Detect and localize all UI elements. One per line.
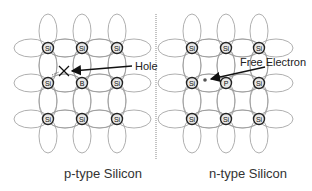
svg-text:Si: Si [189,45,196,52]
atom-si: Si [254,43,265,54]
atom-si: Si [43,114,54,125]
hole-x-icon [59,66,69,76]
p-type-caption: p-type Silicon [64,166,142,181]
svg-text:Si: Si [79,116,86,123]
svg-text:Si: Si [45,116,52,123]
atom-si: Si [112,78,123,89]
atom-si: Si [187,43,198,54]
svg-text:Si: Si [114,80,121,87]
atom-si: Si [77,114,88,125]
atom-si: Si [77,43,88,54]
atom-si: Si [221,43,232,54]
atom-si: Si [254,78,265,89]
lattice-diagram: SiSiSiSiBSiSiSiSi SiSiSiSiPSiSiSiSi [0,0,312,191]
atom-si: Si [187,114,198,125]
svg-text:Si: Si [256,116,263,123]
svg-text:Si: Si [45,45,52,52]
atom-si: Si [112,114,123,125]
atom-si: Si [112,43,123,54]
atom-si: Si [187,78,198,89]
n-type-caption: n-type Silicon [209,166,287,181]
atom-p: P [221,78,232,89]
free-electron-label: Free Electron [240,56,306,68]
free-electron-dot [203,78,207,82]
svg-text:Si: Si [45,80,52,87]
atom-si: Si [43,43,54,54]
atom-si: Si [254,114,265,125]
atom-si: Si [43,78,54,89]
hole-arrow [72,66,132,71]
hole-label: Hole [135,60,158,72]
svg-text:Si: Si [223,116,230,123]
svg-text:Si: Si [223,45,230,52]
svg-text:B: B [80,80,85,87]
svg-text:Si: Si [114,45,121,52]
atom-b: B [77,78,88,89]
svg-text:Si: Si [114,116,121,123]
svg-text:Si: Si [189,80,196,87]
svg-text:P: P [224,80,229,87]
svg-text:Si: Si [189,116,196,123]
svg-text:Si: Si [256,45,263,52]
svg-text:Si: Si [256,80,263,87]
svg-text:Si: Si [79,45,86,52]
atom-si: Si [221,114,232,125]
